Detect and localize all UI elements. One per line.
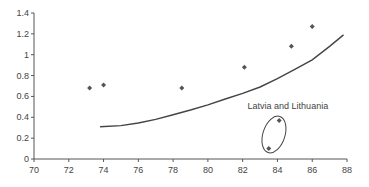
- data-point-marker: [101, 82, 106, 87]
- x-tick-label: 86: [307, 165, 317, 175]
- y-tick-label: 1.2: [16, 29, 29, 39]
- x-tick-label: 88: [342, 165, 352, 175]
- x-tick-label: 84: [272, 165, 282, 175]
- trend-curve: [100, 35, 343, 127]
- axes: 00.20.40.60.811.21.470727476788082848688: [16, 8, 352, 175]
- trend-line: [100, 35, 343, 127]
- data-point-marker: [289, 44, 294, 49]
- x-tick-label: 80: [203, 165, 213, 175]
- data-point-marker: [266, 146, 271, 151]
- data-point-marker: [242, 65, 247, 70]
- data-point-marker: [277, 118, 282, 123]
- y-tick-label: 0: [24, 154, 29, 164]
- annotation-label: Latvia and Lithuania: [248, 101, 329, 111]
- y-tick-label: 1.4: [16, 8, 29, 18]
- x-tick-label: 78: [168, 165, 178, 175]
- data-points: [87, 24, 315, 151]
- y-tick-label: 1: [24, 50, 29, 60]
- y-tick-label: 0.4: [16, 112, 29, 122]
- x-tick-label: 82: [238, 165, 248, 175]
- x-tick-label: 76: [133, 165, 143, 175]
- x-tick-label: 70: [29, 165, 39, 175]
- scatter-chart: 00.20.40.60.811.21.470727476788082848688…: [0, 0, 369, 187]
- data-point-marker: [310, 24, 315, 29]
- annotation-ellipse: [258, 113, 291, 156]
- x-tick-label: 72: [64, 165, 74, 175]
- data-point-marker: [179, 86, 184, 91]
- y-tick-label: 0.2: [16, 133, 29, 143]
- y-tick-label: 0.8: [16, 71, 29, 81]
- data-point-marker: [87, 86, 92, 91]
- y-tick-label: 0.6: [16, 91, 29, 101]
- x-tick-label: 74: [99, 165, 109, 175]
- annotation: Latvia and Lithuania: [248, 101, 329, 156]
